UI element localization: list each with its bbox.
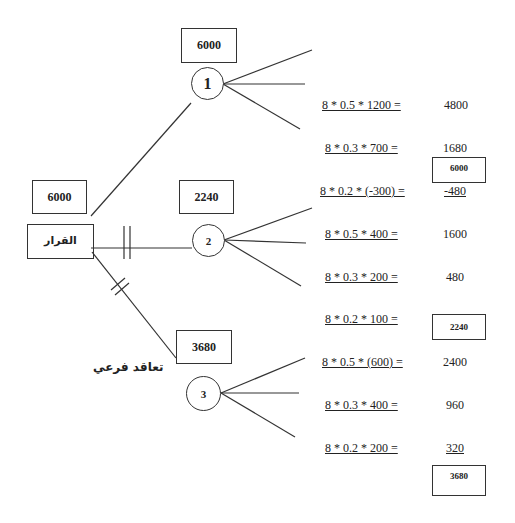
outcome-expression: 8 * 0.3 * 700 = xyxy=(325,141,398,156)
outcome-expression: 8 * 0.2 * 100 = xyxy=(325,312,398,327)
total-box-node-3: 3680 xyxy=(432,465,486,496)
outcome-result: 1600 xyxy=(430,227,480,242)
total-box-node-2: 2240 xyxy=(432,314,486,340)
outcome-result: 320 xyxy=(430,441,480,456)
expected-value-box-node-1: 6000 xyxy=(181,28,237,63)
subcontract-label: تعاقد فرعي xyxy=(93,360,163,374)
decision-node-box: القرار xyxy=(27,224,94,259)
expected-value-box-node-3: 3680 xyxy=(176,330,232,364)
total-box-node-1: 6000 xyxy=(432,157,486,183)
outcome-result: 480 xyxy=(430,270,480,285)
outcome-expression: 8 * 0.3 * 200 = xyxy=(325,270,398,285)
decision-value-box: 6000 xyxy=(32,180,87,214)
chance-node-2: 2 xyxy=(192,224,225,257)
outcome-expression: 8 * 0.2 * (-300) = xyxy=(320,184,405,199)
outcome-result: 1680 xyxy=(430,141,480,156)
expected-value-box-node-2: 2240 xyxy=(179,180,234,214)
outcome-expression: 8 * 0.3 * 400 = xyxy=(325,398,398,413)
outcome-expression: 8 * 0.5 * 400 = xyxy=(325,227,398,242)
outcome-expression: 8 * 0.5 * 1200 = xyxy=(322,98,401,113)
outcome-expression: 8 * 0.2 * 200 = xyxy=(325,441,398,456)
outcome-result: -480 xyxy=(430,184,480,199)
chance-node-3: 3 xyxy=(186,376,221,411)
outcome-result: 2400 xyxy=(430,355,480,370)
chance-node-1: 1 xyxy=(191,67,224,100)
outcome-expression: 8 * 0.5 * (600) = xyxy=(322,355,403,370)
outcome-result: 960 xyxy=(430,398,480,413)
outcome-result: 4800 xyxy=(431,98,481,113)
